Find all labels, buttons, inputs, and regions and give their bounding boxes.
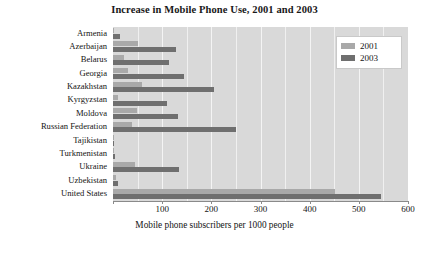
bar-kyrgyzstan-2001 [113, 95, 118, 100]
legend-swatch-2003-icon [341, 55, 355, 61]
chart-root: Increase in Mobile Phone Use, 2001 and 2… [0, 0, 429, 263]
bar-georgia-2001 [113, 68, 128, 73]
x-tick-label-200: 200 [205, 204, 219, 214]
category-label-moldova: Moldova [76, 109, 107, 118]
category-label-ukraine: Ukraine [79, 162, 107, 171]
bar-kazakhstan-2001 [113, 82, 142, 87]
legend-label-2003: 2003 [360, 52, 378, 64]
category-label-belarus: Belarus [81, 55, 107, 64]
category-label-kazakhstan: Kazakhstan [67, 82, 107, 91]
x-tick-label-400: 400 [303, 204, 317, 214]
bar-moldova-2003 [113, 114, 178, 119]
category-label-kyrgyzstan: Kyrgyzstan [68, 95, 107, 104]
legend-item-2001: 2001 [341, 40, 401, 52]
bar-tajikistan-2003 [113, 141, 114, 146]
bar-kyrgyzstan-2003 [113, 101, 167, 106]
bar-russian-federation-2001 [113, 122, 132, 127]
category-label-uzbekistan: Uzbekistan [68, 176, 107, 185]
x-tick-label-500: 500 [352, 204, 366, 214]
bar-georgia-2003 [113, 74, 184, 79]
bar-azerbaijan-2001 [113, 41, 138, 46]
bar-belarus-2003 [113, 60, 169, 65]
gridline-200 [211, 27, 212, 201]
bar-azerbaijan-2003 [113, 47, 176, 52]
category-label-united-states: United States [61, 189, 107, 198]
category-label-azerbaijan: Azerbaijan [69, 42, 107, 51]
bar-turkmenistan-2001 [113, 148, 114, 153]
x-tick-label-300: 300 [254, 204, 268, 214]
bar-tajikistan-2001 [113, 135, 114, 140]
bar-belarus-2001 [113, 55, 124, 60]
bar-united-states-2001 [113, 189, 335, 194]
gridline-400 [310, 27, 311, 201]
bar-moldova-2001 [113, 108, 137, 113]
category-label-tajikistan: Tajikistan [73, 136, 107, 145]
x-axis-title: Mobile phone subscribers per 1000 people [0, 220, 429, 230]
category-label-armenia: Armenia [77, 29, 107, 38]
legend-item-2003: 2003 [341, 52, 401, 64]
gridline-300 [261, 27, 262, 201]
gridline-minor-250 [236, 27, 237, 201]
x-tick-0 [113, 201, 114, 204]
bar-uzbekistan-2003 [113, 181, 118, 186]
bar-ukraine-2003 [113, 167, 179, 172]
category-axis-labels: ArmeniaAzerbaijanBelarusGeorgiaKazakhsta… [0, 27, 110, 201]
gridline-minor-350 [285, 27, 286, 201]
chart-title: Increase in Mobile Phone Use, 2001 and 2… [0, 4, 429, 15]
bar-kazakhstan-2003 [113, 87, 214, 92]
bar-armenia-2001 [113, 28, 114, 33]
bar-ukraine-2001 [113, 162, 135, 167]
legend-swatch-2001-icon [341, 43, 355, 49]
category-label-russian-federation: Russian Federation [41, 122, 107, 131]
category-label-georgia: Georgia [79, 69, 107, 78]
x-tick-label-600: 600 [401, 204, 415, 214]
x-tick-label-100: 100 [155, 204, 169, 214]
legend-label-2001: 2001 [360, 40, 378, 52]
bar-russian-federation-2003 [113, 127, 236, 132]
category-label-turkmenistan: Turkmenistan [60, 149, 107, 158]
bar-united-states-2003 [113, 194, 381, 199]
gridline-minor-150 [187, 27, 188, 201]
bar-armenia-2003 [113, 34, 120, 39]
bar-uzbekistan-2001 [113, 175, 116, 180]
chart-legend: 2001 2003 [336, 36, 402, 69]
bar-turkmenistan-2003 [113, 154, 115, 159]
